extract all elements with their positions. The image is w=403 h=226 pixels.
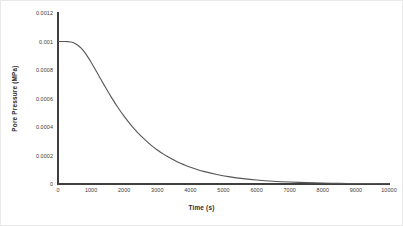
pore-pressure-curve [58,13,389,184]
x-tick-label: 0 [56,187,59,193]
x-tick-label: 5000 [217,187,229,193]
x-tick-label: 9000 [350,187,362,193]
curve-path [58,41,389,183]
x-tick-label: 4000 [184,187,196,193]
x-tick-label: 7000 [283,187,295,193]
x-tick-label: 8000 [317,187,329,193]
x-axis-title: Time (s) [1,204,402,211]
x-tick-label: 2000 [118,187,130,193]
x-tick-label: 3000 [151,187,163,193]
chart-figure: 00.00020.00040.00060.00080.0010.0012 010… [0,0,403,226]
x-tick-label: 6000 [250,187,262,193]
x-tick-label: 1000 [85,187,97,193]
x-tick-label: 10000 [381,187,397,193]
y-axis-title-text: Pore Pressure (MPa) [11,65,18,131]
y-axis-title: Pore Pressure (MPa) [7,1,21,196]
plot-area [58,13,389,184]
